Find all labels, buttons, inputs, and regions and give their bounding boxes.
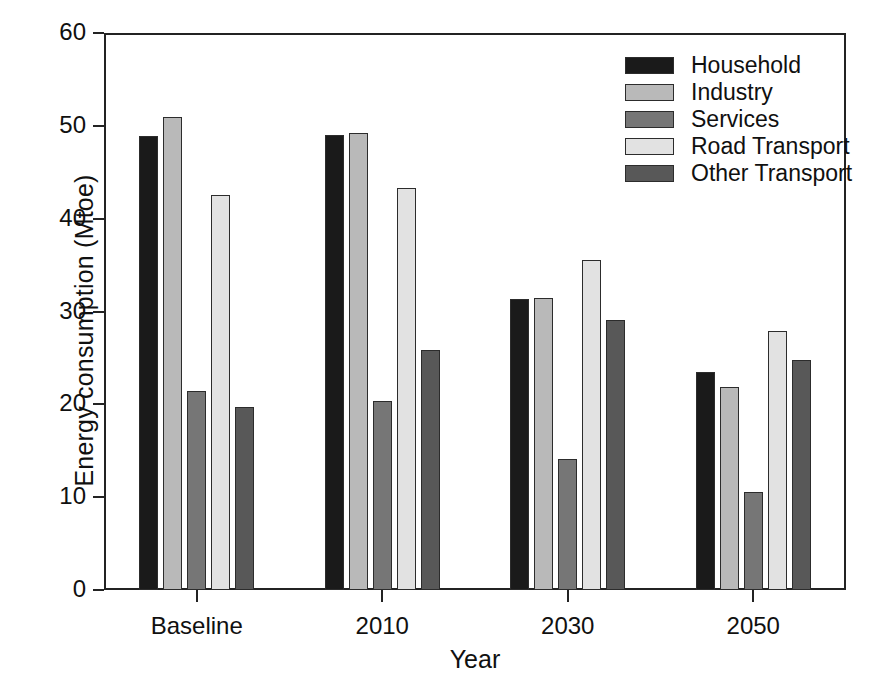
bar bbox=[558, 459, 577, 590]
y-tick-mark bbox=[93, 403, 104, 405]
bar bbox=[373, 401, 392, 590]
legend-swatch bbox=[625, 84, 674, 101]
legend: HouseholdIndustryServicesRoad TransportO… bbox=[625, 52, 852, 187]
y-tick-mark bbox=[93, 218, 104, 220]
bar bbox=[349, 133, 368, 590]
bar bbox=[792, 360, 811, 590]
y-tick-label: 10 bbox=[59, 482, 86, 510]
y-tick-label: 20 bbox=[59, 389, 86, 417]
legend-swatch bbox=[625, 111, 674, 128]
x-tick-mark bbox=[567, 590, 569, 602]
x-axis-title: Year bbox=[104, 645, 846, 674]
bar-chart: Energy consumption (Mtoe) Year 010203040… bbox=[0, 0, 887, 696]
y-tick-label: 30 bbox=[59, 297, 86, 325]
y-tick-label: 60 bbox=[59, 18, 86, 46]
bar bbox=[606, 320, 625, 590]
legend-label: Industry bbox=[691, 81, 773, 104]
bar bbox=[421, 350, 440, 590]
legend-swatch bbox=[625, 138, 674, 155]
y-tick-mark bbox=[93, 496, 104, 498]
x-tick-mark bbox=[381, 590, 383, 602]
bar bbox=[397, 188, 416, 590]
bar bbox=[534, 298, 553, 590]
bar bbox=[744, 492, 763, 590]
legend-label: Services bbox=[691, 108, 779, 131]
legend-item: Road Transport bbox=[625, 133, 852, 159]
y-tick-mark bbox=[93, 32, 104, 34]
x-tick-mark bbox=[752, 590, 754, 602]
bar bbox=[235, 407, 254, 590]
y-tick-label: 40 bbox=[59, 204, 86, 232]
legend-item: Services bbox=[625, 106, 852, 132]
bar bbox=[768, 331, 787, 590]
bar bbox=[139, 136, 158, 590]
legend-item: Industry bbox=[625, 79, 852, 105]
x-tick-mark bbox=[196, 590, 198, 602]
x-tick-label: Baseline bbox=[97, 612, 297, 640]
legend-item: Household bbox=[625, 52, 852, 78]
y-tick-label: 50 bbox=[59, 111, 86, 139]
legend-swatch bbox=[625, 165, 674, 182]
legend-label: Other Transport bbox=[691, 162, 852, 185]
x-tick-label: 2050 bbox=[653, 612, 853, 640]
bar bbox=[211, 195, 230, 590]
y-tick-mark bbox=[93, 589, 104, 591]
bar bbox=[720, 387, 739, 590]
y-tick-label: 0 bbox=[73, 575, 86, 603]
bar bbox=[187, 391, 206, 590]
legend-swatch bbox=[625, 57, 674, 74]
legend-label: Household bbox=[691, 54, 801, 77]
bar bbox=[510, 299, 529, 590]
bar bbox=[696, 372, 715, 590]
legend-label: Road Transport bbox=[691, 135, 850, 158]
bar bbox=[163, 117, 182, 590]
x-tick-label: 2030 bbox=[468, 612, 668, 640]
bar bbox=[582, 260, 601, 590]
x-tick-label: 2010 bbox=[282, 612, 482, 640]
bar bbox=[325, 135, 344, 590]
y-tick-mark bbox=[93, 311, 104, 313]
legend-item: Other Transport bbox=[625, 160, 852, 186]
y-tick-mark bbox=[93, 125, 104, 127]
